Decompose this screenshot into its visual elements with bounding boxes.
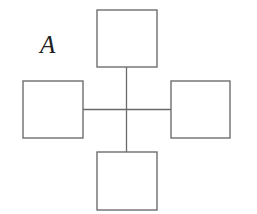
right-box: [171, 81, 230, 138]
diagram-label-a: A: [40, 32, 55, 57]
cross-connected-boxes-diagram: [0, 0, 257, 214]
top-box: [97, 10, 157, 67]
diagram-canvas: A: [0, 0, 257, 214]
bottom-box: [97, 152, 157, 210]
left-box: [23, 81, 83, 138]
